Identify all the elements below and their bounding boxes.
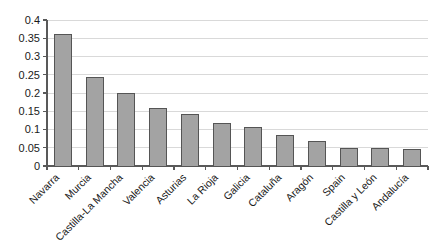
y-tick-label: 0.35 [19,32,40,44]
bar [277,136,294,166]
bar [86,78,103,166]
y-tick-label: 0.4 [25,14,40,26]
bar [404,149,421,166]
bar [213,123,230,166]
y-tick-label: 0 [34,160,40,172]
bar [245,127,262,166]
x-category-label: Murcia [62,171,93,202]
bar [118,93,135,166]
bar [150,108,167,166]
x-category-label: Spain [320,171,348,199]
y-tick-label: 0.3 [25,50,40,62]
y-tick-label: 0.15 [19,105,40,117]
chart-plot-area: 00.050.10.150.20.250.30.350.4NavarraMurc… [0,0,448,250]
x-category-label: Cataluña [245,171,283,209]
x-category-label: La Rioja [184,171,220,207]
bar [181,115,198,166]
bar [372,148,389,166]
x-category-label: Navarra [26,171,61,206]
y-tick-label: 0.25 [19,69,40,81]
x-category-label: Asturias [153,171,188,206]
x-category-label: Aragón [283,171,316,204]
bar [308,142,325,166]
x-category-label: Valencia [120,171,157,208]
y-tick-label: 0.05 [19,142,40,154]
y-tick-label: 0.2 [25,87,40,99]
y-tick-label: 0.1 [25,123,40,135]
bar [54,35,71,166]
bar [340,148,357,166]
bar-chart: 00.050.10.150.20.250.30.350.4NavarraMurc… [0,0,448,250]
